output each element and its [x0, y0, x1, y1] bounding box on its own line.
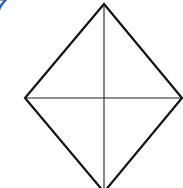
- rhombus-diagram: [0, 0, 183, 188]
- figure: 7: [0, 0, 183, 188]
